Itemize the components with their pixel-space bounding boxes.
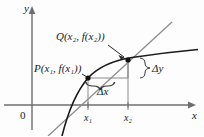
point-q-label: Q(x₂, f(x₂)) [56, 31, 105, 42]
delta-y-brace [140, 58, 150, 78]
point-p-marker [85, 75, 90, 80]
x-tick-label-x1: x₁ [84, 113, 92, 123]
x-axis-arrow-icon [188, 102, 196, 109]
delta-x-label: Δx [97, 86, 108, 97]
x-axis-label: x [192, 110, 197, 121]
x-axis [4, 102, 196, 109]
figure-container: Q(x₂, f(x₂)) P(x₁, f(x₁)) Δy Δx x₁ x₂ 0 … [0, 0, 204, 136]
origin-label: 0 [20, 110, 26, 121]
secant-line-diagram [0, 0, 204, 136]
point-p-label: P(x₁, f(x₁)) [34, 63, 81, 74]
point-q-marker [125, 57, 130, 62]
q-leader-arrow-icon [108, 45, 125, 60]
x-tick-label-x2: x₂ [124, 113, 132, 123]
delta-y-label: Δy [152, 63, 163, 74]
function-curve [62, 50, 198, 137]
y-axis-label: y [24, 3, 29, 14]
y-axis-arrow-icon [29, 6, 36, 14]
